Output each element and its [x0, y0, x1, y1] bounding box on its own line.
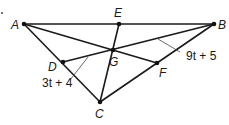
label-b: B [218, 18, 226, 32]
leader-line-bg [158, 39, 180, 52]
point-a [22, 22, 27, 27]
point-f [155, 61, 160, 66]
label-d: D [48, 60, 57, 74]
label-a: A [10, 18, 19, 32]
label-f: F [159, 66, 167, 80]
point-b [212, 22, 217, 27]
point-c [98, 100, 103, 105]
point-g [111, 48, 116, 53]
label-c: C [95, 107, 104, 121]
leader-line-dg [70, 57, 88, 80]
annotation-bg-length: 9t + 5 [186, 49, 217, 63]
stray-dot [1, 12, 3, 14]
label-g: G [109, 55, 118, 69]
label-e: E [114, 6, 123, 20]
median-diagram: A E B G D F C 9t + 5 3t + 4 [0, 0, 229, 125]
annotation-dg-length: 3t + 4 [42, 76, 73, 90]
point-e [117, 22, 122, 27]
point-d [61, 60, 66, 65]
